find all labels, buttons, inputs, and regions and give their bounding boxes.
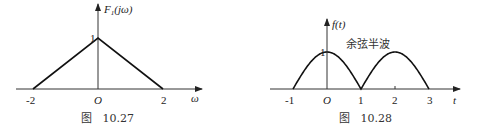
x-tick-label: 3 bbox=[427, 94, 433, 106]
figures: F1(jω) 1 -2 O 2 ω 图 10.27 f(t) 1 余弦半波 -1… bbox=[0, 0, 481, 133]
figure-10-28: f(t) 1 余弦半波 -1 O 1 2 3 t 图 10.28 bbox=[270, 18, 460, 125]
origin-label: O bbox=[323, 94, 331, 106]
x-tick-label: 1 bbox=[358, 94, 364, 106]
x-axis-label: ω bbox=[191, 92, 199, 104]
x-tick-label: 2 bbox=[161, 94, 167, 106]
figure-caption: 图 10.27 bbox=[81, 112, 134, 125]
series-line-f bbox=[293, 52, 429, 89]
y-axis-label: f(t) bbox=[332, 18, 346, 31]
y-axis-label: F1(jω) bbox=[103, 3, 133, 17]
x-tick-label: -1 bbox=[285, 94, 294, 106]
figure-10-27: F1(jω) 1 -2 O 2 ω 图 10.27 bbox=[16, 3, 202, 125]
y-tick-label: 1 bbox=[90, 32, 96, 44]
figure-caption: 图 10.28 bbox=[339, 112, 392, 125]
origin-label: O bbox=[94, 94, 102, 106]
x-tick-label: -2 bbox=[26, 94, 35, 106]
x-tick-label: 2 bbox=[392, 94, 398, 106]
annotation-label: 余弦半波 bbox=[346, 37, 390, 51]
y-tick-label: 1 bbox=[320, 46, 326, 58]
x-axis-label: t bbox=[453, 94, 457, 106]
